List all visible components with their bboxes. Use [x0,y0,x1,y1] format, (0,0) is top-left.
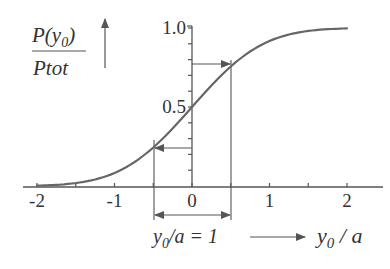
svg-text:P(y0): P(y0) [31,23,75,50]
x-axis-tick-labels: -2-1012 [29,190,352,211]
chart: -2-1012 0.51.0 P(y0) Ptot y0/a = 1 y0 / … [0,0,390,269]
x-tick-label: 0 [187,190,197,211]
x-tick-label: -1 [107,190,123,211]
x-tick-label: 2 [342,190,352,211]
x-axis-label: y0 / a [315,223,362,251]
y-tick-label: 1.0 [162,17,186,38]
y-axis-tick-labels: 0.51.0 [162,17,186,117]
y-axis-label: P(y0) Ptot [31,23,86,80]
width-annotation-label: y0/a = 1 [151,225,218,251]
x-tick-label: 1 [265,190,275,211]
y-tick-label: 0.5 [162,96,186,117]
svg-text:Ptot: Ptot [32,56,69,80]
x-tick-label: -2 [29,190,45,211]
